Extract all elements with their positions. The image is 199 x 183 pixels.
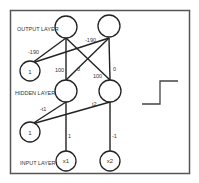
edge-bias-hid-hid1 [32,102,66,124]
step-function-icon [142,81,178,104]
weight-bias-hid-hid1: -t1 [40,106,46,112]
weight-bias-out-out1: -190 [28,49,39,55]
weight-bias-hid-hid2: t2 [92,101,97,107]
hidden-layer-label: HIDDEN LAYER [15,90,55,96]
node-hidden-2 [99,80,121,102]
weight-bias-out-out2: -190 [85,37,96,43]
weight-in2-hid2: -1 [112,133,117,139]
node-hidden-1 [55,80,77,102]
node-output-2 [98,15,120,37]
weight-hid1-out2: 0 [77,66,80,72]
input-1-label: x1 [63,158,70,164]
input-layer-label: INPUT LAYER [20,160,56,166]
weight-in1-hid1: 1 [68,133,71,139]
weight-hid2-out2: 0 [113,66,116,72]
edge-hid2-out2 [109,38,110,80]
weight-hid1-out1: 100 [55,67,64,73]
neural-network-diagram: 1 1 x1 x2 OUTPUT LAYER HIDDEN LAYER INPU… [0,0,199,183]
input-2-label: x2 [107,158,114,164]
weight-hid2-out1: 100 [93,73,102,79]
output-layer-label: OUTPUT LAYER [17,26,59,32]
